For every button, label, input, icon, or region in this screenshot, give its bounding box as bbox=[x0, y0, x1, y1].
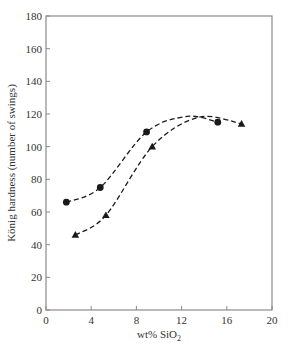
triangle-marker bbox=[72, 231, 80, 238]
chart: 020406080100120140160180 048121620 König… bbox=[0, 0, 288, 354]
y-tick-label: 0 bbox=[37, 304, 43, 316]
y-tick-label: 40 bbox=[31, 239, 43, 251]
x-tick-label: 12 bbox=[176, 314, 187, 326]
circle-marker bbox=[63, 199, 70, 206]
x-axis-label-subscript: 2 bbox=[177, 334, 181, 343]
series-circles bbox=[63, 116, 221, 205]
series-line bbox=[75, 116, 241, 235]
y-tick-label: 140 bbox=[26, 75, 43, 87]
y-tick-label: 160 bbox=[26, 43, 43, 55]
x-axis-label: wt% SiO2 bbox=[137, 328, 181, 343]
circle-marker bbox=[143, 129, 150, 136]
y-tick-label: 180 bbox=[26, 10, 43, 22]
series-line bbox=[66, 116, 217, 202]
y-axis-label: König hardness (number of swings) bbox=[5, 84, 18, 242]
y-tick-label: 120 bbox=[26, 108, 43, 120]
circle-marker bbox=[214, 119, 221, 126]
y-tick-label: 100 bbox=[26, 141, 43, 153]
circle-marker bbox=[97, 184, 104, 191]
x-axis: 048121620 bbox=[43, 306, 278, 326]
x-tick-label: 8 bbox=[134, 314, 140, 326]
series-triangles bbox=[72, 116, 246, 237]
y-tick-label: 20 bbox=[31, 271, 43, 283]
x-tick-label: 16 bbox=[221, 314, 233, 326]
x-tick-label: 0 bbox=[43, 314, 49, 326]
plot-frame bbox=[46, 16, 272, 310]
y-tick-label: 80 bbox=[31, 173, 43, 185]
plot-border bbox=[46, 16, 272, 310]
y-tick-label: 60 bbox=[31, 206, 43, 218]
series-layer bbox=[63, 116, 245, 238]
x-axis-label-main: wt% SiO bbox=[137, 328, 177, 340]
x-tick-label: 4 bbox=[88, 314, 94, 326]
x-tick-label: 20 bbox=[267, 314, 279, 326]
